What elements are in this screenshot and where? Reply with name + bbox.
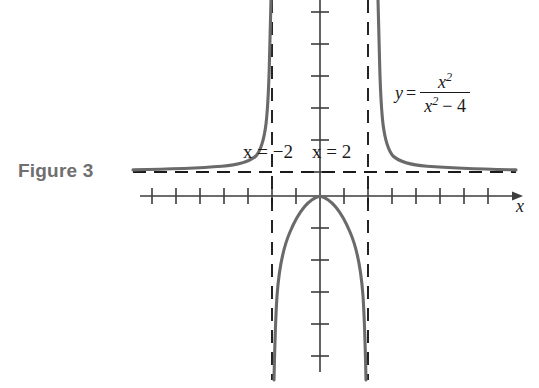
asymptote-label-right: x = 2 — [312, 141, 351, 163]
equation-fraction: x2 x2− 4 — [420, 71, 470, 115]
numerator-variable: x — [438, 72, 446, 92]
figure-caption: Figure 3 — [18, 160, 94, 182]
x-axis-label: x — [516, 196, 524, 217]
curve-equation-label: y = x2 x2− 4 — [395, 71, 470, 115]
function-graph — [0, 0, 539, 388]
equation-lhs: y — [395, 83, 403, 104]
equation-numerator: x2 — [434, 71, 456, 92]
denominator-exponent: 2 — [432, 94, 438, 108]
asymptote-label-left: x = −2 — [243, 141, 293, 163]
denominator-remainder: − 4 — [442, 96, 466, 116]
denominator-variable: x — [424, 96, 432, 116]
equation-denominator: x2− 4 — [420, 93, 470, 115]
numerator-exponent: 2 — [446, 70, 452, 84]
equation-equals-sign: = — [406, 83, 416, 104]
x-axis — [140, 192, 523, 201]
figure-container: Figure 3 x = −2 x = 2 x y = x2 x2− 4 — [0, 0, 539, 388]
